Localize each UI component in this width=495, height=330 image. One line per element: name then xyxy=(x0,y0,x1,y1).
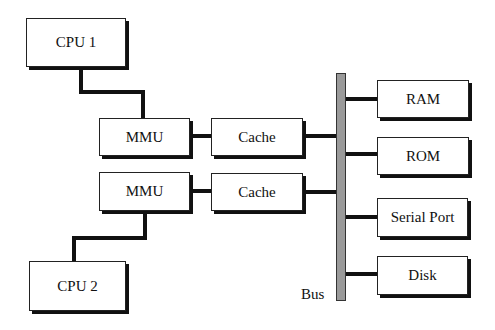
ram-node: RAM xyxy=(377,80,469,118)
mmu2-cache2-connector xyxy=(191,189,212,193)
bus-ram-connector xyxy=(345,97,378,101)
cpu2-connector-h xyxy=(72,236,147,240)
disk-node: Disk xyxy=(377,256,468,295)
cache2-node: Cache xyxy=(211,173,303,211)
bus-serial-connector xyxy=(345,215,378,219)
ram-label: RAM xyxy=(406,91,440,108)
mmu1-cache1-connector xyxy=(191,134,212,138)
cpu2-connector-v2 xyxy=(72,236,76,262)
bus-label: Bus xyxy=(301,286,324,303)
cache1-bus-connector xyxy=(304,134,337,138)
cpu2-label: CPU 2 xyxy=(57,278,97,295)
cache2-bus-connector xyxy=(304,190,337,194)
rom-label: ROM xyxy=(406,148,440,165)
mmu1-node: MMU xyxy=(99,118,190,156)
rom-node: ROM xyxy=(377,137,469,175)
cpu1-label: CPU 1 xyxy=(56,34,96,51)
serial-port-node: Serial Port xyxy=(377,198,468,237)
cache2-label: Cache xyxy=(238,184,275,201)
system-bus xyxy=(336,73,346,301)
mmu2-label: MMU xyxy=(126,183,164,200)
mmu2-node: MMU xyxy=(99,172,190,211)
cpu2-node: CPU 2 xyxy=(29,261,126,311)
bus-rom-connector xyxy=(345,152,378,156)
cpu1-connector-v2 xyxy=(141,90,145,119)
cpu1-node: CPU 1 xyxy=(26,18,126,67)
disk-label: Disk xyxy=(408,267,436,284)
serial-port-label: Serial Port xyxy=(391,209,455,226)
cpu1-connector-h xyxy=(79,90,145,94)
bus-disk-connector xyxy=(345,272,378,276)
mmu1-label: MMU xyxy=(126,129,164,146)
cache1-label: Cache xyxy=(238,129,275,146)
cache1-node: Cache xyxy=(211,118,303,156)
